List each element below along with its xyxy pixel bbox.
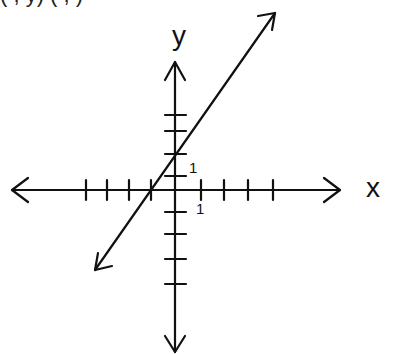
coordinate-plane: ( , y) ( , ) (0, 0, 398, 354)
y-axis-label: y (172, 22, 186, 50)
x-tick-label-1: 1 (196, 201, 204, 216)
x-axis-label: x (366, 174, 380, 202)
y-tick-label-1: 1 (189, 160, 197, 175)
graph-svg (0, 0, 398, 354)
graphed-line (95, 13, 275, 270)
